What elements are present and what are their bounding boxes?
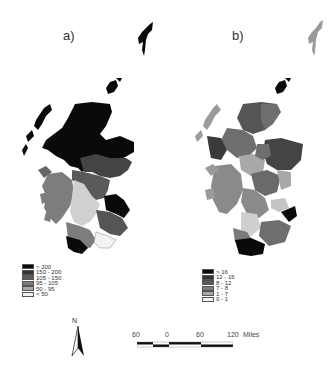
legend-a: > 200 150 - 200 105 - 150 95 - 105 50 - … <box>22 264 61 297</box>
scale-tick-120: 120 <box>227 331 239 338</box>
legend-swatch <box>202 280 214 285</box>
legend-swatch <box>22 275 34 280</box>
legend-label: 0 - 1 <box>216 296 228 302</box>
map-b-shetland <box>308 20 323 56</box>
map-b-angus <box>277 170 291 190</box>
map-b-dumfries <box>235 238 265 256</box>
map-b-caithness <box>261 104 281 130</box>
map-b-orkney <box>275 78 291 94</box>
north-arrow-icon <box>68 318 88 358</box>
map-a-shetland <box>138 22 153 56</box>
legend-swatch <box>202 286 214 291</box>
scale-tick-60: 60 <box>196 331 204 338</box>
legend-swatch <box>202 269 214 274</box>
legend-swatch <box>202 275 214 280</box>
legend-b: > 16 12 - 16 8 - 12 7 - 8 1 - 7 0 - 1 <box>202 269 235 302</box>
scale-tick-0: 0 <box>165 331 169 338</box>
legend-label: < 50 <box>36 291 48 297</box>
legend-swatch <box>22 286 34 291</box>
map-a-scotland <box>0 0 170 260</box>
legend-swatch <box>22 292 34 297</box>
map-b-borders <box>259 220 291 246</box>
legend-b-item: 0 - 1 <box>202 297 235 303</box>
legend-swatch <box>22 264 34 269</box>
scale-bar <box>137 340 233 349</box>
legend-swatch <box>202 291 214 296</box>
legend-swatch <box>202 297 214 302</box>
scale-unit: Miles <box>243 331 259 338</box>
legend-swatch <box>22 270 34 275</box>
cutoff-caption <box>0 366 335 372</box>
scale-tick-60-left: 60 <box>132 331 140 338</box>
map-b-scotland <box>165 0 335 260</box>
map-a-orkney <box>106 78 122 94</box>
legend-swatch <box>22 281 34 286</box>
legend-a-item: < 50 <box>22 292 61 298</box>
